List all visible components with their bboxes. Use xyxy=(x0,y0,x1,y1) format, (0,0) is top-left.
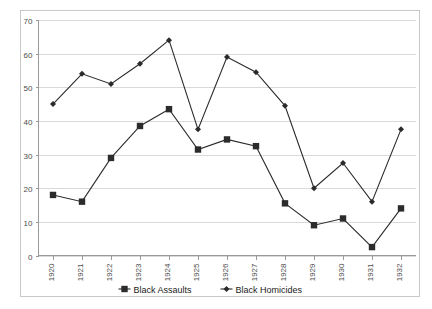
series-line-0 xyxy=(53,109,401,247)
y-axis-label: 40 xyxy=(24,118,33,127)
series-line-1 xyxy=(53,40,401,201)
data-point xyxy=(398,205,404,211)
data-point xyxy=(311,222,317,228)
legend-marker-square xyxy=(121,286,127,292)
data-point xyxy=(195,146,201,152)
x-axis-label: 1931 xyxy=(366,263,375,281)
x-axis-label: 1929 xyxy=(308,263,317,281)
x-axis-label: 1925 xyxy=(192,263,201,281)
data-point xyxy=(50,192,56,198)
line-chart-plot: 010203040506070 192019211922192319241925… xyxy=(0,0,432,309)
legend-marker-diamond xyxy=(224,286,230,292)
y-axis-label: 0 xyxy=(28,253,33,262)
series-lines-group xyxy=(53,40,401,247)
y-axis-labels-group: 010203040506070 xyxy=(24,17,33,262)
x-axis-label: 1930 xyxy=(337,263,346,281)
data-point xyxy=(253,143,259,149)
series-markers-group xyxy=(50,37,404,250)
chart-legend: Black AssaultsBlack Homicides xyxy=(119,285,303,295)
legend-label: Black Assaults xyxy=(134,285,193,295)
data-point xyxy=(166,106,172,112)
x-axis-label: 1923 xyxy=(134,263,143,281)
data-point xyxy=(282,200,288,206)
x-axis-label: 1924 xyxy=(163,263,172,281)
y-axis-label: 30 xyxy=(24,152,33,161)
data-point xyxy=(398,126,404,132)
x-axis-label: 1922 xyxy=(105,263,114,281)
y-axis-label: 70 xyxy=(24,17,33,26)
legend-label: Black Homicides xyxy=(236,285,303,295)
data-point xyxy=(137,123,143,129)
data-point xyxy=(340,215,346,221)
y-axis-label: 60 xyxy=(24,51,33,60)
y-axis-label: 10 xyxy=(24,219,33,228)
legend-item-0[interactable]: Black Assaults xyxy=(119,285,193,295)
x-axis-label: 1927 xyxy=(250,263,259,281)
chart-container: 010203040506070 192019211922192319241925… xyxy=(0,0,432,309)
legend-item-1[interactable]: Black Homicides xyxy=(221,285,303,295)
data-point xyxy=(79,198,85,204)
x-axis-label: 1928 xyxy=(279,263,288,281)
data-point xyxy=(224,136,230,142)
data-point xyxy=(195,126,201,132)
x-axis-label: 1926 xyxy=(221,263,230,281)
chart-outer-border xyxy=(21,11,420,297)
x-axis-label: 1920 xyxy=(47,263,56,281)
x-axis-label: 1932 xyxy=(395,263,404,281)
data-point xyxy=(369,244,375,250)
x-axis-labels-group: 1920192119221923192419251926192719281929… xyxy=(47,263,404,281)
x-axis-label: 1921 xyxy=(76,263,85,281)
y-axis-label: 50 xyxy=(24,84,33,93)
y-axis-label: 20 xyxy=(24,185,33,194)
data-point xyxy=(108,155,114,161)
